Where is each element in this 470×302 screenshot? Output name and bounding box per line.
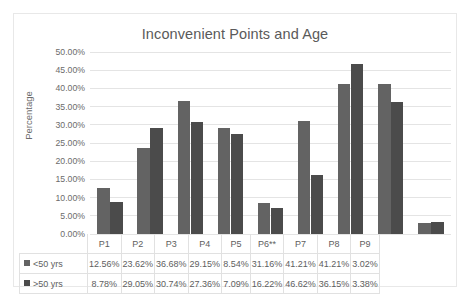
category-header-cell: P1 bbox=[88, 234, 122, 254]
data-cell: 3.02% bbox=[351, 254, 380, 274]
chart-title: Inconvenient Points and Age bbox=[14, 26, 456, 42]
series-legend-cell: >50 yrs bbox=[20, 274, 88, 294]
plot-wrapper: 0.00%5.00%10.00%15.00%20.00%25.00%30.00%… bbox=[42, 52, 451, 234]
bar[interactable] bbox=[258, 203, 270, 234]
y-axis-tick-label: 15.00% bbox=[56, 174, 85, 184]
category-header-cell: P2 bbox=[121, 234, 155, 254]
bar-group bbox=[371, 52, 411, 234]
y-axis-tick-labels: 0.00%5.00%10.00%15.00%20.00%25.00%30.00%… bbox=[42, 52, 88, 234]
category-header-cell: P9 bbox=[351, 234, 380, 254]
data-cell: 36.68% bbox=[155, 254, 189, 274]
table-row: >50 yrs8.78%29.05%30.74%27.36%7.09%16.22… bbox=[20, 274, 380, 294]
table-corner-cell bbox=[20, 234, 88, 254]
data-cell: 3.38% bbox=[351, 274, 380, 294]
category-header-cell: P7 bbox=[284, 234, 318, 254]
y-axis-tick-label: 20.00% bbox=[56, 156, 85, 166]
bar[interactable] bbox=[218, 128, 230, 234]
data-cell: 30.74% bbox=[155, 274, 189, 294]
bar-group bbox=[210, 52, 250, 234]
y-axis-tick-label: 10.00% bbox=[56, 193, 85, 203]
bar[interactable] bbox=[178, 101, 190, 235]
y-axis-tick-label: 50.00% bbox=[56, 47, 85, 57]
category-header-cell: P8 bbox=[317, 234, 351, 254]
bar-group bbox=[90, 52, 130, 234]
bar[interactable] bbox=[378, 84, 390, 234]
data-table-body: P1P2P3P4P5P6**P7P8P9<50 yrs12.56%23.62%3… bbox=[20, 234, 380, 294]
series-label: >50 yrs bbox=[33, 279, 63, 289]
legend-swatch-icon bbox=[24, 280, 30, 286]
data-cell: 29.05% bbox=[121, 274, 155, 294]
data-cell: 36.15% bbox=[317, 274, 351, 294]
chart-data-table: P1P2P3P4P5P6**P7P8P9<50 yrs12.56%23.62%3… bbox=[19, 234, 380, 294]
table-row: <50 yrs12.56%23.62%36.68%29.15%8.54%31.1… bbox=[20, 254, 380, 274]
series-legend-cell: <50 yrs bbox=[20, 254, 88, 274]
legend-swatch-icon bbox=[24, 260, 30, 266]
bar-group bbox=[170, 52, 210, 234]
category-header-cell: P3 bbox=[155, 234, 189, 254]
bar[interactable] bbox=[311, 175, 323, 234]
bar-group bbox=[411, 52, 451, 234]
plot-area bbox=[90, 52, 451, 234]
y-axis-tick-label: 5.00% bbox=[60, 211, 85, 221]
y-axis-tick-label: 30.00% bbox=[56, 120, 85, 130]
category-header-cell: P5 bbox=[222, 234, 251, 254]
bar[interactable] bbox=[431, 222, 443, 234]
bar[interactable] bbox=[418, 223, 430, 234]
data-cell: 16.22% bbox=[250, 274, 284, 294]
y-axis-tick-label: 25.00% bbox=[56, 138, 85, 148]
category-header-cell: P4 bbox=[188, 234, 222, 254]
bar-group bbox=[130, 52, 170, 234]
bar-group bbox=[331, 52, 371, 234]
bar[interactable] bbox=[191, 122, 203, 234]
chart-container: Inconvenient Points and Age Percentage 0… bbox=[13, 13, 457, 287]
bar[interactable] bbox=[97, 188, 109, 234]
data-cell: 7.09% bbox=[222, 274, 251, 294]
bar-group bbox=[291, 52, 331, 234]
data-cell: 41.21% bbox=[284, 254, 318, 274]
data-cell: 29.15% bbox=[188, 254, 222, 274]
bar-group bbox=[250, 52, 290, 234]
bar[interactable] bbox=[298, 121, 310, 234]
data-cell: 31.16% bbox=[250, 254, 284, 274]
y-axis-title: Percentage bbox=[23, 78, 34, 154]
y-axis-tick-label: 45.00% bbox=[56, 65, 85, 75]
y-axis-tick-label: 35.00% bbox=[56, 102, 85, 112]
data-cell: 41.21% bbox=[317, 254, 351, 274]
data-cell: 27.36% bbox=[188, 274, 222, 294]
data-cell: 12.56% bbox=[88, 254, 122, 274]
bar[interactable] bbox=[150, 128, 162, 234]
category-header-cell: P6** bbox=[250, 234, 284, 254]
bar[interactable] bbox=[391, 102, 403, 234]
bar-groups bbox=[90, 52, 451, 234]
table-row-categories: P1P2P3P4P5P6**P7P8P9 bbox=[20, 234, 380, 254]
y-axis-tick-label: 40.00% bbox=[56, 83, 85, 93]
data-cell: 23.62% bbox=[121, 254, 155, 274]
bar[interactable] bbox=[231, 134, 243, 234]
series-label: <50 yrs bbox=[33, 259, 63, 269]
data-cell: 46.62% bbox=[284, 274, 318, 294]
bar[interactable] bbox=[271, 208, 283, 234]
bar[interactable] bbox=[338, 84, 350, 234]
data-cell: 8.54% bbox=[222, 254, 251, 274]
bar[interactable] bbox=[137, 148, 149, 234]
bar[interactable] bbox=[110, 202, 122, 234]
data-cell: 8.78% bbox=[88, 274, 122, 294]
bar[interactable] bbox=[351, 64, 363, 234]
